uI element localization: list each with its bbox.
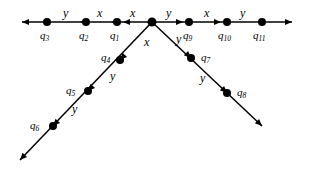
node-label-base: q — [110, 29, 116, 41]
node-label-subscript: 6 — [36, 124, 40, 133]
node-dot-q7[interactable] — [187, 54, 195, 62]
node-label-subscript: 7 — [207, 56, 211, 65]
edge-label-q7-q8: y — [200, 72, 205, 84]
node-dot-q1[interactable] — [113, 18, 121, 26]
node-label-base: q — [201, 51, 207, 63]
node-label-base: q — [79, 29, 85, 41]
node-label-q6: q6 — [30, 120, 39, 131]
edge-label-q1-center: x — [130, 7, 135, 19]
right-terminal-arrow-head — [285, 19, 292, 25]
node-label-base: q — [253, 29, 259, 41]
node-label-q3: q3 — [40, 30, 49, 41]
node-label-q1: q1 — [110, 30, 119, 41]
right-branch-line — [152, 22, 262, 126]
node-dot-center[interactable] — [148, 18, 157, 27]
edge-label-q3-q2: y — [63, 7, 68, 19]
node-label-base: q — [40, 29, 46, 41]
node-label-q7: q7 — [201, 52, 210, 63]
node-label-subscript: 11 — [259, 34, 266, 43]
node-label-q4: q4 — [101, 52, 110, 63]
graph-canvas — [0, 0, 311, 177]
right-terminal-arrow — [285, 19, 292, 25]
node-label-subscript: 3 — [46, 34, 50, 43]
node-label-q9: q9 — [183, 30, 192, 41]
node-label-q10: q10 — [218, 30, 231, 41]
edge-label-q9-q10: x — [204, 7, 209, 19]
node-label-subscript: 4 — [107, 56, 111, 65]
node-dot-q3[interactable] — [43, 18, 51, 26]
mid-arrow-ctr-q9 — [176, 19, 183, 25]
edge-label-center-q4: x — [144, 36, 149, 48]
node-label-base: q — [183, 29, 189, 41]
node-label-subscript: 5 — [72, 89, 76, 98]
state-diagram-figure: q3q2q1q9q10q11q4q5q6q7q8yxxyxyxyyyy — [0, 0, 311, 177]
node-dot-q5[interactable] — [84, 87, 92, 95]
node-label-subscript: 8 — [243, 91, 247, 100]
node-dot-q11[interactable] — [258, 18, 266, 26]
mid-arrow-ctr-q9-head — [176, 19, 183, 25]
node-label-q5: q5 — [66, 85, 75, 96]
edge-label-q4-q5: y — [110, 70, 115, 82]
mid-arrow-q1-ctr-head — [123, 19, 130, 25]
edge-label-q5-q6: y — [72, 103, 77, 115]
node-label-subscript: 9 — [189, 34, 193, 43]
edge-label-q2-q1: x — [97, 7, 102, 19]
node-label-subscript: 1 — [116, 34, 120, 43]
node-dot-q8[interactable] — [223, 89, 231, 97]
mid-arrow-q1-ctr — [123, 19, 130, 25]
node-dot-q10[interactable] — [223, 18, 231, 26]
edge-label-q10-q11: y — [240, 7, 245, 19]
node-label-base: q — [30, 119, 36, 131]
node-dot-q6[interactable] — [49, 122, 57, 130]
mid-arrow-q9-q10-head — [214, 19, 221, 25]
node-label-subscript: 10 — [224, 34, 232, 43]
node-dot-q9[interactable] — [185, 18, 193, 26]
node-label-subscript: 2 — [85, 34, 89, 43]
node-label-base: q — [101, 51, 107, 63]
mid-arrow-q9-q10 — [214, 19, 221, 25]
edge-label-center-q7: y — [176, 33, 181, 45]
node-label-q11: q11 — [253, 30, 265, 41]
left-terminal-arrow — [22, 19, 29, 25]
node-dot-q4[interactable] — [116, 56, 124, 64]
node-label-base: q — [218, 29, 224, 41]
node-label-q8: q8 — [237, 87, 246, 98]
left-terminal-arrow-head — [22, 19, 29, 25]
node-label-base: q — [237, 86, 243, 98]
node-label-base: q — [66, 84, 72, 96]
node-dot-q2[interactable] — [82, 18, 90, 26]
node-label-q2: q2 — [79, 30, 88, 41]
edge-label-center-q9: y — [166, 7, 171, 19]
